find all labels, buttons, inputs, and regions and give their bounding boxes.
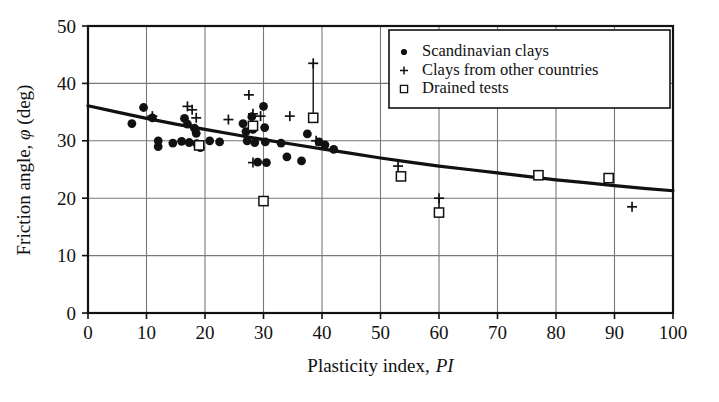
- x-tick-label: 80: [547, 322, 566, 343]
- data-point-circle: [250, 138, 259, 147]
- data-point-circle: [283, 152, 292, 161]
- legend-marker-square: [400, 85, 407, 92]
- y-tick-label: 0: [67, 303, 77, 324]
- legend-label: Drained tests: [422, 78, 509, 97]
- y-tick-label: 40: [57, 73, 76, 94]
- y-tick-label: 30: [57, 130, 76, 151]
- x-tick-label: 100: [659, 322, 688, 343]
- data-point-circle: [303, 130, 312, 139]
- data-point-circle: [205, 136, 214, 145]
- data-point-circle: [262, 158, 271, 167]
- legend-label: Scandinavian clays: [422, 41, 549, 60]
- legend-item: Clays from other countries: [400, 60, 598, 79]
- data-point-square: [259, 196, 268, 205]
- data-point-circle: [297, 156, 306, 165]
- svg-text:Plasticity index,: Plasticity index,: [307, 355, 429, 376]
- data-point-circle: [185, 138, 194, 147]
- data-point-circle: [259, 102, 268, 111]
- legend-item: Scandinavian clays: [401, 41, 549, 60]
- data-point-circle: [127, 119, 136, 128]
- data-point-square: [604, 174, 613, 183]
- data-point-square: [534, 171, 543, 180]
- x-tick-label: 40: [313, 322, 332, 343]
- y-tick-label: 10: [57, 245, 76, 266]
- data-point-square: [309, 113, 318, 122]
- y-axis-label: Friction angle, φ (deg): [13, 85, 35, 256]
- data-point-circle: [239, 119, 248, 128]
- x-tick-label: 90: [605, 322, 624, 343]
- x-tick-label: 30: [254, 322, 273, 343]
- svg-text:PI: PI: [435, 355, 456, 376]
- chart-legend: Scandinavian claysClays from other count…: [389, 30, 670, 108]
- data-point-square: [195, 141, 204, 150]
- y-tick-label: 50: [57, 16, 76, 37]
- data-point-circle: [261, 138, 270, 147]
- x-axis-label: Plasticity index, PI: [307, 355, 455, 376]
- x-tick-label: 20: [196, 322, 215, 343]
- data-point-square: [396, 172, 405, 181]
- legend-marker-circle: [401, 49, 407, 55]
- x-tick-label: 60: [430, 322, 449, 343]
- legend-label: Clays from other countries: [422, 60, 598, 79]
- data-point-circle: [321, 140, 330, 149]
- data-point-circle: [139, 103, 148, 112]
- y-tick-label: 20: [57, 188, 76, 209]
- friction-angle-vs-plasticity-index-chart: 010203040506070809010001020304050 Plasti…: [0, 0, 719, 402]
- data-point-circle: [329, 145, 338, 154]
- data-point-circle: [192, 129, 201, 138]
- x-tick-label: 10: [137, 322, 156, 343]
- data-point-circle: [154, 142, 163, 151]
- data-point-square: [434, 208, 443, 217]
- figure-container: 010203040506070809010001020304050 Plasti…: [0, 0, 719, 402]
- data-point-square: [248, 121, 257, 130]
- data-point-circle: [260, 123, 269, 132]
- data-point-circle: [177, 137, 186, 146]
- data-point-circle: [168, 139, 177, 148]
- x-tick-label: 50: [371, 322, 390, 343]
- x-tick-label: 0: [83, 322, 93, 343]
- x-tick-label: 70: [488, 322, 507, 343]
- data-point-circle: [215, 138, 224, 147]
- data-point-circle: [277, 139, 286, 148]
- data-point-circle: [243, 136, 252, 145]
- svg-text:Friction angle, φ (deg): Friction angle, φ (deg): [13, 85, 35, 256]
